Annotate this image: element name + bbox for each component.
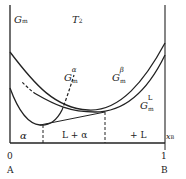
region-l-alpha-label: L + α — [62, 131, 87, 140]
g-liquid-label: GmL — [140, 101, 158, 112]
temperature-label: T2 — [72, 15, 83, 25]
region-alpha-label: α — [20, 131, 27, 141]
region-l-label: + L — [130, 131, 146, 140]
g-beta-label: Gmβ — [112, 73, 130, 84]
g-liquid-dashed — [22, 82, 36, 94]
tick-1-label: 1 — [161, 152, 167, 161]
gm-axis-label: Gm — [14, 15, 28, 25]
gibbs-energy-diagram — [0, 0, 186, 179]
g-alpha-label: Gmα — [64, 73, 82, 84]
x-axis-label: xB — [166, 133, 174, 141]
end-b-label: B — [161, 166, 168, 175]
common-tangent — [40, 112, 105, 125]
end-a-label: A — [7, 166, 14, 175]
tick-0-label: 0 — [7, 152, 13, 161]
